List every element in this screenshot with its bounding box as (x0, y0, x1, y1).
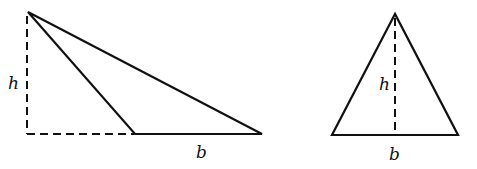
acute-triangle-figure: h b (332, 14, 458, 164)
obtuse-triangle (28, 12, 262, 134)
obtuse-triangle-figure: h b (8, 12, 262, 162)
base-label: b (196, 142, 207, 162)
height-label: h (8, 73, 19, 93)
base-label: b (389, 144, 400, 164)
triangle-area-diagram: h b h b (0, 0, 477, 169)
height-label: h (379, 74, 390, 94)
